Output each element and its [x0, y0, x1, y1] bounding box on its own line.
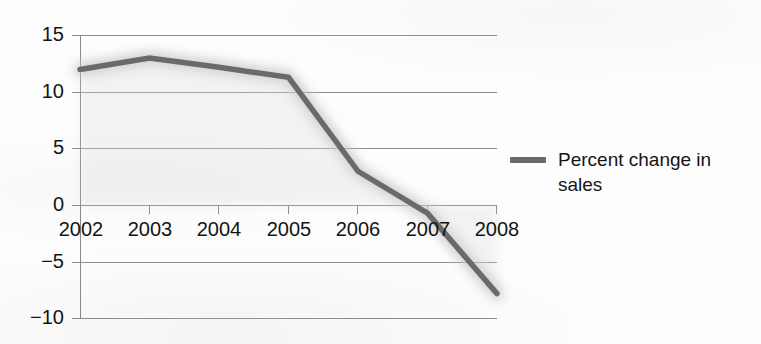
x-tick-label-2005: 2005: [253, 219, 325, 239]
y-tick-label-0: 0: [16, 194, 64, 214]
y-tick-label-15: 15: [16, 24, 64, 44]
x-tick-label-2003: 2003: [114, 219, 186, 239]
legend-swatch-line-icon: [510, 157, 546, 163]
y-axis-ticks: [72, 36, 80, 319]
x-tick-label-2006: 2006: [322, 219, 394, 239]
x-tick-label-2008: 2008: [461, 219, 533, 239]
y-tick-label-neg5: −5: [16, 251, 64, 271]
x-tick-label-2007: 2007: [392, 219, 464, 239]
y-tick-label-10: 10: [16, 81, 64, 101]
x-tick-label-2004: 2004: [183, 219, 255, 239]
y-tick-label-5: 5: [16, 137, 64, 157]
legend-label-line-2: sales: [558, 173, 711, 198]
legend-entry-label: Percent change in sales: [558, 148, 711, 197]
legend-label-line-1: Percent change in: [558, 148, 711, 173]
under-curve-wash: [80, 58, 497, 294]
chart-legend: Percent change in sales: [510, 148, 711, 197]
x-tick-label-2002: 2002: [45, 219, 117, 239]
y-tick-label-neg10: −10: [16, 307, 64, 327]
chart-screenshot: 15 10 5 0 −5 −10 2002 2003 2004 2005 200…: [0, 0, 761, 344]
